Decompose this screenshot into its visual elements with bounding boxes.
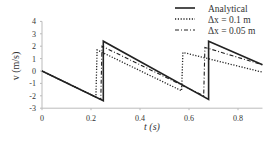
x-tick-label: 0.6 xyxy=(184,114,194,123)
series-line-2 xyxy=(42,46,263,99)
x-tick-label: 0.2 xyxy=(86,114,96,123)
y-tick-label: 3 xyxy=(32,30,36,39)
y-tick-label: -2 xyxy=(29,92,36,101)
series-line-1 xyxy=(42,50,263,97)
x-tick-label: 0 xyxy=(40,114,44,123)
y-tick-label: -1 xyxy=(29,79,36,88)
legend-label: Δx = 0.05 m xyxy=(208,26,256,36)
legend-label: Δx = 0.1 m xyxy=(208,15,251,25)
y-tick-label: 1 xyxy=(32,55,36,64)
x-tick-label: 0.8 xyxy=(233,114,243,123)
velocity-chart: 00.20.40.60.8-3-2-101234 AnalyticalΔx = … xyxy=(0,0,273,144)
x-axis-label: t (s) xyxy=(144,121,161,133)
y-axis-label: v (m/s) xyxy=(10,52,22,81)
y-tick-label: 4 xyxy=(32,17,36,26)
y-tick-label: 2 xyxy=(32,42,36,51)
y-tick-label: -3 xyxy=(29,104,36,113)
legend: AnalyticalΔx = 0.1 mΔx = 0.05 m xyxy=(175,4,256,36)
data-series xyxy=(42,41,263,101)
legend-label: Analytical xyxy=(208,4,248,14)
y-tick-label: 0 xyxy=(32,67,36,76)
chart-canvas: 00.20.40.60.8-3-2-101234 AnalyticalΔx = … xyxy=(0,0,273,144)
